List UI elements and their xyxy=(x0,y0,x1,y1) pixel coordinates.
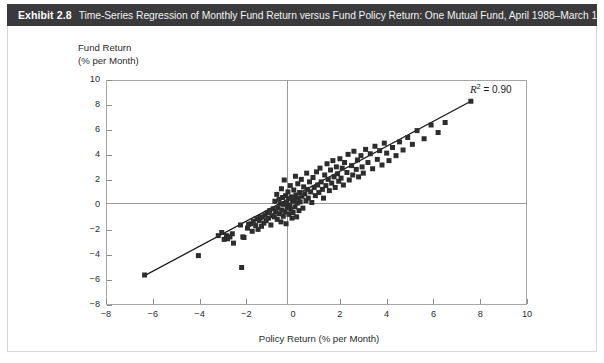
scatter-point xyxy=(349,163,354,168)
scatter-layer xyxy=(0,0,604,363)
scatter-point xyxy=(410,142,415,147)
scatter-point xyxy=(330,158,335,163)
scatter-point xyxy=(321,196,326,201)
scatter-point xyxy=(302,191,307,196)
scatter-point xyxy=(397,139,402,144)
r-squared-value: = 0.90 xyxy=(483,84,511,95)
scatter-point xyxy=(278,219,283,224)
scatter-point xyxy=(294,214,299,219)
scatter-point xyxy=(299,177,304,182)
scatter-point xyxy=(288,183,293,188)
scatter-point xyxy=(384,151,389,156)
scatter-point xyxy=(284,221,289,226)
scatter-point xyxy=(346,152,351,157)
scatter-point xyxy=(390,145,395,150)
scatter-point xyxy=(340,166,345,171)
scatter-point xyxy=(347,178,352,183)
r-squared-exponent: 2 xyxy=(477,83,481,90)
scatter-point xyxy=(319,179,324,184)
scatter-point xyxy=(250,229,255,234)
scatter-point xyxy=(285,189,290,194)
scatter-point xyxy=(401,148,406,153)
scatter-point xyxy=(293,174,298,179)
chart-canvas: Fund Return (% per Month) −8−6−4−2024681… xyxy=(0,0,604,363)
scatter-point xyxy=(342,160,347,165)
scatter-point xyxy=(268,223,273,228)
scatter-point xyxy=(318,166,323,171)
x-axis-title-text: Policy Return (% per Month) xyxy=(259,333,380,344)
scatter-point xyxy=(329,181,334,186)
scatter-point xyxy=(370,166,375,171)
scatter-point xyxy=(443,120,448,125)
scatter-point xyxy=(300,206,305,211)
scatter-point xyxy=(304,171,309,176)
scatter-point xyxy=(354,167,359,172)
r-squared-annotation: R2 = 0.90 xyxy=(470,83,512,95)
scatter-point xyxy=(387,158,392,163)
scatter-point xyxy=(291,188,296,193)
scatter-point xyxy=(379,163,384,168)
scatter-point xyxy=(468,99,473,104)
exhibit-figure: Exhibit 2.8 Time-Series Regression of Mo… xyxy=(0,0,604,363)
scatter-point xyxy=(279,186,284,191)
scatter-point xyxy=(375,157,380,162)
scatter-point xyxy=(291,210,296,215)
scatter-point xyxy=(344,170,349,175)
scatter-point xyxy=(238,223,243,228)
scatter-point xyxy=(363,147,368,152)
scatter-point xyxy=(281,214,286,219)
scatter-point xyxy=(328,168,333,173)
scatter-point xyxy=(307,179,312,184)
scatter-point xyxy=(415,128,420,133)
scatter-point xyxy=(241,235,246,240)
scatter-point xyxy=(298,199,303,204)
scatter-point xyxy=(196,253,201,258)
scatter-point xyxy=(335,171,340,176)
scatter-point xyxy=(405,135,410,140)
scatter-point xyxy=(309,200,314,205)
scatter-point xyxy=(325,161,330,166)
scatter-point xyxy=(360,164,365,169)
scatter-point xyxy=(356,174,361,179)
scatter-point xyxy=(422,136,427,141)
scatter-point xyxy=(308,189,313,194)
scatter-point xyxy=(372,144,377,149)
scatter-point xyxy=(327,188,332,193)
scatter-point xyxy=(142,273,147,278)
scatter-point xyxy=(274,192,279,197)
scatter-point xyxy=(351,149,356,154)
scatter-point xyxy=(337,156,342,161)
scatter-point xyxy=(289,216,294,221)
scatter-point xyxy=(333,185,338,190)
scatter-point xyxy=(368,151,373,156)
scatter-point xyxy=(295,181,300,186)
scatter-point xyxy=(358,153,363,158)
r-squared-symbol: R xyxy=(470,83,477,95)
scatter-point xyxy=(341,183,346,188)
scatter-point xyxy=(231,241,236,246)
scatter-point xyxy=(436,130,441,135)
scatter-point xyxy=(282,178,287,183)
scatter-point xyxy=(230,231,235,236)
scatter-point xyxy=(377,148,382,153)
scatter-point xyxy=(382,141,387,146)
scatter-point xyxy=(350,173,355,178)
scatter-point xyxy=(339,176,344,181)
scatter-point xyxy=(219,230,224,235)
scatter-point xyxy=(365,160,370,165)
scatter-point xyxy=(323,183,328,188)
scatter-point xyxy=(310,175,315,180)
scatter-point xyxy=(306,196,311,201)
scatter-point xyxy=(394,153,399,158)
scatter-point xyxy=(334,164,339,169)
scatter-point xyxy=(429,123,434,128)
x-axis-title: Policy Return (% per Month) xyxy=(0,333,604,344)
scatter-point xyxy=(239,265,244,270)
scatter-point xyxy=(361,171,366,176)
scatter-point xyxy=(355,158,360,163)
scatter-point xyxy=(322,173,327,178)
